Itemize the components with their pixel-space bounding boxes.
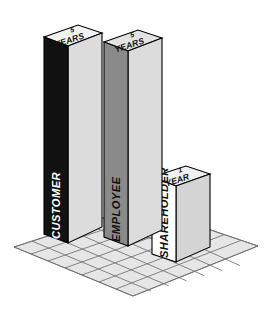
- bar-customer-category-label: CUSTOMER: [50, 172, 62, 239]
- isometric-bar-chart: 1 YEAR SHAREHOLDER 5 YEARS EMPLOYEE 5: [0, 0, 271, 317]
- bar-shareholder-side-face: [176, 174, 210, 262]
- chart-container: 1 YEAR SHAREHOLDER 5 YEARS EMPLOYEE 5: [0, 0, 271, 317]
- bar-customer-side-face: [68, 33, 102, 243]
- bar-customer[interactable]: 5 YEARS CUSTOMER: [44, 23, 102, 243]
- bar-employee[interactable]: 5 YEARS EMPLOYEE: [104, 28, 162, 246]
- bar-employee-side-face: [128, 38, 162, 246]
- bar-employee-category-label: EMPLOYEE: [110, 176, 122, 242]
